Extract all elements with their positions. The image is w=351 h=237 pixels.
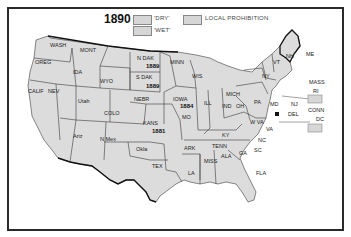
label-wva: W VA bbox=[250, 119, 264, 125]
year-sdak: 1889 bbox=[146, 83, 160, 89]
label-oreg: OREG bbox=[35, 59, 51, 65]
label-ky: KY bbox=[222, 132, 230, 138]
label-tex: TEX bbox=[152, 163, 163, 169]
label-del: DEL bbox=[288, 111, 299, 117]
label-nmex: N Mex bbox=[100, 136, 116, 142]
label-ill: ILL bbox=[204, 100, 212, 106]
label-nc: NC bbox=[258, 137, 266, 143]
label-me: ME bbox=[306, 51, 315, 57]
label-fla: FLA bbox=[256, 170, 266, 176]
us-map: WASH OREG CALIF NEV IDA MONT WYO Utah CO… bbox=[0, 0, 351, 237]
label-colo: COLO bbox=[104, 110, 120, 116]
label-nh: NH bbox=[286, 53, 294, 59]
label-sdak: S DAK bbox=[136, 74, 153, 80]
ri-callout-box bbox=[308, 95, 322, 103]
label-dc: DC bbox=[316, 116, 324, 122]
label-pa: PA bbox=[254, 99, 261, 105]
label-iowa: IOWA bbox=[173, 96, 188, 102]
label-mont: MONT bbox=[80, 47, 97, 53]
label-va: VA bbox=[266, 126, 273, 132]
label-ny: NY bbox=[262, 73, 270, 79]
label-mich: MICH bbox=[226, 91, 240, 97]
label-mo: MO bbox=[182, 114, 192, 120]
dc-callout-box bbox=[308, 124, 322, 132]
label-utah: Utah bbox=[78, 98, 90, 104]
label-okla: Okla bbox=[136, 146, 148, 152]
label-nev: NEV bbox=[48, 88, 60, 94]
label-wis: WIS bbox=[192, 73, 203, 79]
label-ida: IDA bbox=[73, 69, 83, 75]
label-nebr: NEBR bbox=[134, 96, 149, 102]
year-iowa: 1884 bbox=[180, 103, 194, 109]
label-ark: ARK bbox=[184, 145, 196, 151]
label-minn: MINN bbox=[170, 59, 184, 65]
label-md: MD bbox=[270, 101, 279, 107]
label-ndak: N DAK bbox=[137, 55, 154, 61]
label-la: LA bbox=[188, 170, 195, 176]
label-ariz: Ariz bbox=[73, 133, 83, 139]
label-vt: VT bbox=[273, 59, 281, 65]
ri-pointer bbox=[282, 96, 310, 99]
label-calif: CALIF bbox=[28, 88, 44, 94]
label-kans: KANS bbox=[143, 120, 158, 126]
label-tenn: TENN bbox=[212, 143, 227, 149]
label-conn: CONN bbox=[308, 107, 324, 113]
label-mass: MASS bbox=[309, 79, 325, 85]
label-sc: SC bbox=[254, 147, 262, 153]
label-ind: IND bbox=[222, 103, 232, 109]
year-kans: 1881 bbox=[152, 128, 166, 134]
label-miss: MISS bbox=[204, 158, 218, 164]
label-wyo: WYO bbox=[100, 78, 114, 84]
label-nj: NJ bbox=[291, 101, 298, 107]
label-wash: WASH bbox=[50, 42, 66, 48]
label-oh: OH bbox=[236, 103, 244, 109]
label-ala: ALA bbox=[221, 153, 232, 159]
label-ri: RI bbox=[313, 88, 319, 94]
dc-marker bbox=[275, 112, 279, 116]
label-ga: GA bbox=[239, 150, 247, 156]
year-ndak: 1889 bbox=[146, 63, 160, 69]
